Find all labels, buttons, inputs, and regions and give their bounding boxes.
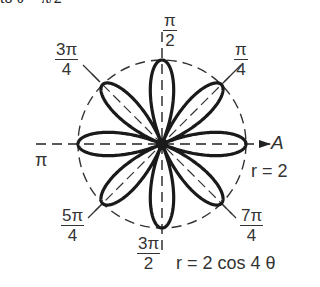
ray-7pi-4 xyxy=(222,204,236,218)
label-5pi-over-4: 5π 4 xyxy=(61,207,84,244)
polar-axis-label-A: A xyxy=(271,132,284,154)
label-pi: π xyxy=(35,150,47,171)
label-pi-over-2: π 2 xyxy=(163,12,177,49)
origin-dot xyxy=(156,138,168,150)
label-pi-over-4: π 4 xyxy=(234,41,248,78)
rose-equation-label: r = 2 cos 4 θ xyxy=(176,253,276,274)
label-3pi-over-2: 3π 2 xyxy=(137,235,160,272)
label-7pi-over-4: 7π 4 xyxy=(240,207,263,244)
label-3pi-over-4: 3π 4 xyxy=(55,41,78,78)
ray-3pi-4 xyxy=(83,65,100,82)
circle-equation-label: r = 2 xyxy=(251,161,288,182)
ray-5pi-4 xyxy=(88,204,102,218)
